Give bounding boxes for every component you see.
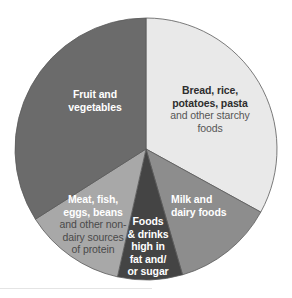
fatsugar-label-line5: or sugar	[120, 265, 176, 278]
protein-label-sub3: of protein	[56, 243, 130, 256]
bread-label-sub1: and other starchy	[160, 109, 260, 122]
bread-label-line2: potatoes, pasta	[160, 97, 260, 110]
fatsugar-label-line3: high in	[120, 240, 176, 253]
milk-label-line2: dairy foods	[171, 206, 241, 219]
slice-label-fruitveg: Fruit and vegetables	[50, 88, 140, 113]
fruitveg-label-line1: Fruit and	[50, 88, 140, 101]
slice-label-milk: Milk and dairy foods	[165, 193, 241, 218]
protein-label-line2: eggs, beans	[56, 206, 130, 219]
fatsugar-label-line1: Foods	[120, 215, 176, 228]
bread-label-line1: Bread, rice,	[160, 84, 260, 97]
slice-label-bread: Bread, rice, potatoes, pasta and other s…	[160, 84, 260, 134]
bread-label-sub2: foods	[160, 122, 260, 135]
protein-label-sub1: and other non-	[56, 218, 130, 231]
bottom-divider	[0, 288, 152, 289]
slice-label-fatsugar: Foods & drinks high in fat and/ or sugar	[120, 215, 176, 278]
protein-label-sub2: dairy sources	[56, 231, 130, 244]
milk-label-line1: Milk and	[171, 193, 241, 206]
slice-label-protein: Meat, fish, eggs, beans and other non- d…	[56, 193, 130, 256]
fatsugar-label-line4: fat and/	[120, 253, 176, 266]
protein-label-line1: Meat, fish,	[56, 193, 130, 206]
fatsugar-label-line2: & drinks	[120, 228, 176, 241]
fruitveg-label-line2: vegetables	[50, 101, 140, 114]
